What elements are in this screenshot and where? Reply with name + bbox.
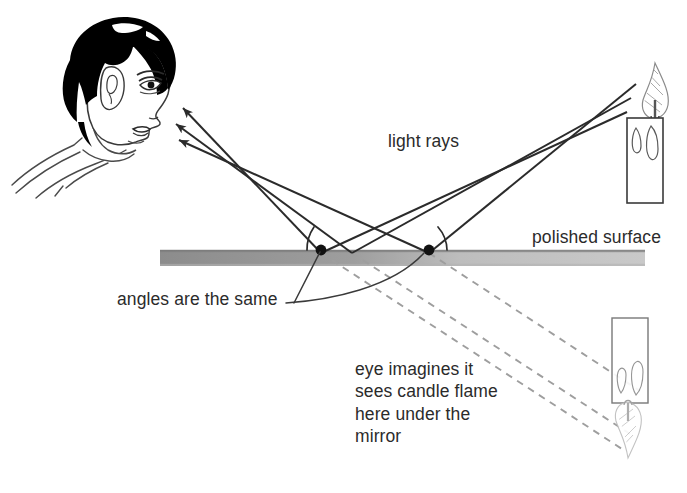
candle-body: [627, 118, 663, 203]
mirror-surface: [160, 250, 645, 266]
diagram-canvas: light rays polished surface angles are t…: [0, 0, 687, 493]
real-candle: [627, 63, 668, 203]
label-light-rays: light rays: [388, 130, 459, 152]
reflection-point-right: [424, 245, 435, 256]
label-angles-are-the-same: angles are the same: [117, 288, 277, 310]
virtual-candle-flame: [615, 401, 641, 459]
reflected-ray-2: [176, 124, 352, 253]
label-polished-surface: polished surface: [532, 226, 661, 248]
virtual-candle-body: [612, 318, 648, 403]
angle-arc-left: [307, 227, 314, 250]
virtual-candle-image: [612, 318, 648, 458]
reflected-ray-3: [183, 108, 321, 253]
mouth: [133, 127, 150, 132]
reflection-point-left: [316, 245, 327, 256]
hair-sideburn: [78, 122, 92, 147]
candle-flame: [642, 63, 668, 121]
angle-arc-right: [438, 227, 447, 250]
label-eye-imagines-candle-flame: eye imagines it sees candle flame here u…: [355, 358, 498, 448]
shoulders: [12, 138, 134, 198]
observer-head: [12, 17, 176, 198]
